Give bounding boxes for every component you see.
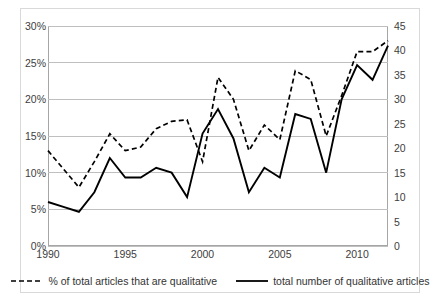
y-axis-left-tick-label: 10% [2, 167, 46, 179]
y-axis-right-tick-label: 40 [394, 44, 406, 56]
y-axis-left-tick-label: 5% [2, 203, 46, 215]
x-axis-tick-label: 2000 [191, 248, 214, 260]
y-axis-right-tick-label: 15 [394, 167, 406, 179]
x-axis-tick-label: 2005 [268, 248, 291, 260]
y-axis-right-tick-label: 0 [394, 240, 400, 252]
chart-legend: % of total articles that are qualitative… [24, 272, 416, 290]
legend-item-percent-qualitative: % of total articles that are qualitative [10, 275, 217, 287]
chart-container: 0%5%10%15%20%25%30% 051015202530354045 1… [0, 0, 440, 304]
x-axis-tick-label: 2010 [345, 248, 368, 260]
data-series-lines [48, 41, 388, 212]
y-axis-right-tick-label: 30 [394, 93, 406, 105]
y-axis-right-tick-label: 35 [394, 69, 406, 81]
legend-solid-line-icon [235, 276, 269, 286]
x-axis-tick-label: 1990 [36, 248, 59, 260]
y-axis-left-ticks: 0%5%10%15%20%25%30% [0, 26, 46, 246]
legend-item-total-qualitative: total number of qualitative articles [235, 275, 429, 287]
y-axis-right-tick-label: 20 [394, 142, 406, 154]
y-axis-right-ticks: 051015202530354045 [390, 26, 436, 246]
x-axis-ticks: 19901995200020052010 [48, 248, 388, 264]
series-line-total-qualitative [48, 46, 388, 212]
gridlines [48, 26, 388, 246]
legend-dashed-line-icon [10, 276, 44, 286]
y-axis-right-tick-label: 10 [394, 191, 406, 203]
y-axis-left-tick-label: 25% [2, 57, 46, 69]
x-axis-tick-label: 1995 [114, 248, 137, 260]
y-axis-left-tick-label: 30% [2, 20, 46, 32]
y-axis-right-tick-label: 25 [394, 118, 406, 130]
y-axis-left-tick-label: 15% [2, 130, 46, 142]
legend-label-total-qualitative: total number of qualitative articles [273, 275, 429, 287]
legend-label-percent-qualitative: % of total articles that are qualitative [48, 275, 217, 287]
y-axis-left-tick-label: 20% [2, 93, 46, 105]
y-axis-right-tick-label: 45 [394, 20, 406, 32]
y-axis-right-tick-label: 5 [394, 216, 400, 228]
